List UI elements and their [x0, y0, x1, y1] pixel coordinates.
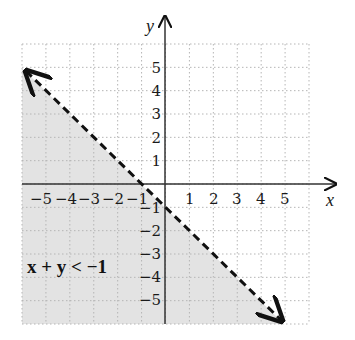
svg-text:−2: −2 [139, 222, 161, 240]
svg-text:−5: −5 [30, 190, 52, 208]
svg-text:5: 5 [151, 59, 161, 77]
svg-text:−3: −3 [78, 190, 100, 208]
svg-text:−5: −5 [139, 291, 161, 309]
svg-text:2: 2 [151, 129, 161, 147]
svg-text:2: 2 [209, 190, 219, 208]
svg-text:−4: −4 [139, 268, 161, 286]
inequality-label: x + y < −1 [27, 256, 107, 277]
svg-text:−2: −2 [102, 190, 124, 208]
svg-text:5: 5 [280, 190, 290, 208]
x-axis-label: x [325, 190, 334, 210]
svg-text:−3: −3 [139, 245, 161, 263]
svg-text:3: 3 [151, 105, 161, 123]
svg-text:1: 1 [151, 152, 161, 170]
y-axis-label: y [144, 16, 154, 36]
svg-text:3: 3 [232, 190, 242, 208]
svg-text:−4: −4 [55, 190, 77, 208]
inequality-graph: x y −5 −4 −3 −2 −1 1 2 3 4 5 5 4 3 2 1 −… [0, 0, 355, 340]
svg-text:1: 1 [185, 190, 195, 208]
svg-text:−1: −1 [139, 199, 161, 217]
svg-text:4: 4 [151, 82, 161, 100]
svg-text:4: 4 [256, 190, 266, 208]
